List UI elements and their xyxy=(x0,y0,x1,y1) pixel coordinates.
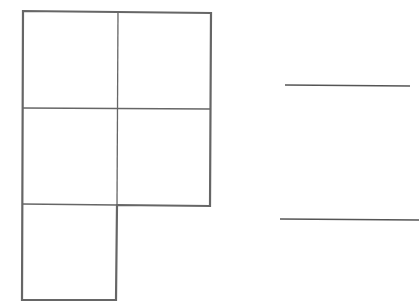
diagram-canvas xyxy=(0,0,419,305)
shape-outline xyxy=(22,11,211,300)
grid-divider-line xyxy=(22,204,117,205)
grid-divider-line xyxy=(23,108,210,109)
answer-blank-line xyxy=(280,219,419,220)
answer-blank-line xyxy=(285,85,410,86)
composite-square-shape xyxy=(22,11,211,300)
answer-lines xyxy=(280,85,419,220)
